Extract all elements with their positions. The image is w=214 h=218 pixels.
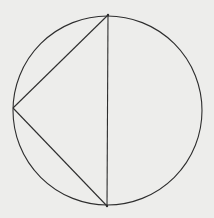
chord-left-bottom	[13, 108, 107, 206]
geometry-diagram	[0, 0, 214, 218]
vertex-bottom	[106, 205, 108, 207]
vertex-top	[107, 14, 109, 16]
diameter-segment	[107, 15, 108, 206]
